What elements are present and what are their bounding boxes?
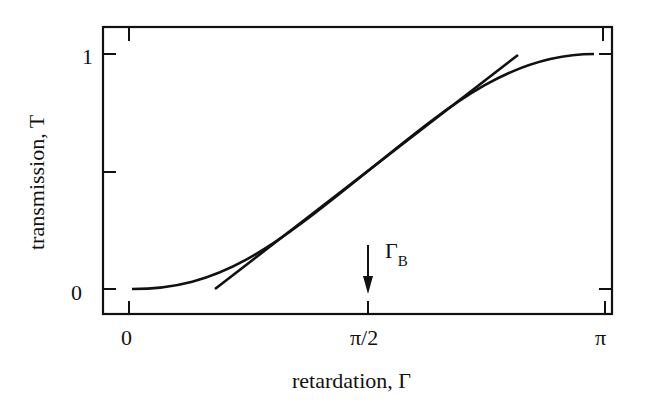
x-axis-label: retardation, Γ xyxy=(292,370,411,392)
annotation-gamma-b: ΓB xyxy=(385,240,408,262)
ticks xyxy=(103,27,612,314)
transmission-curve xyxy=(132,54,594,289)
y-tick-label-1: 1 xyxy=(82,46,93,68)
annotation-main: Γ xyxy=(385,238,398,263)
x-tick-label-pi-half: π/2 xyxy=(350,327,378,349)
x-tick-label-pi: π xyxy=(595,327,606,349)
chart-canvas xyxy=(0,0,652,407)
annotation-subscript: B xyxy=(398,253,408,269)
plot-frame xyxy=(103,27,612,314)
x-tick-label-0: 0 xyxy=(121,327,132,349)
y-tick-label-0: 0 xyxy=(71,282,82,304)
y-axis-label: transmission, T xyxy=(26,115,48,250)
tangent-line xyxy=(215,55,518,289)
arrow-icon xyxy=(363,245,373,294)
